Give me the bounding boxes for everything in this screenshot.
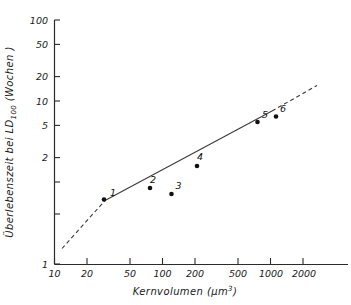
regression-line-solid [105, 111, 272, 201]
y-axis-title-group: Überlebenszeit bei LD100 (Wochen ) [3, 46, 18, 237]
regression-line-group [62, 86, 317, 249]
x-tick-label-50: 50 [124, 268, 136, 279]
x-tick-label-200: 200 [186, 268, 204, 279]
x-tick-label-1000: 1000 [259, 268, 283, 279]
y-tick-label-100: 100 [30, 15, 48, 26]
data-point-label-6: 6 [280, 103, 286, 114]
data-point-4[interactable] [195, 164, 200, 169]
data-point-label-3: 3 [176, 180, 182, 191]
regression-line-dashed-high [272, 86, 317, 112]
data-point-label-4: 4 [197, 151, 203, 162]
data-point-3[interactable] [169, 192, 174, 197]
y-tick-label-1: 1 [42, 259, 48, 270]
axes-group [55, 20, 349, 265]
y-axis-title-subscript: 100 [10, 105, 18, 120]
data-point-label-2: 2 [150, 174, 156, 185]
data-point-label-1: 1 [110, 187, 116, 198]
chart-figure: 100 50 20 10 5 2 1 10 20 50 100 200 500 [0, 0, 351, 305]
data-point-label-5: 5 [262, 109, 268, 120]
x-axis-title-main: Kernvolumen (µm [133, 286, 228, 297]
x-axis-title: Kernvolumen (µm3) [133, 285, 238, 297]
y-axis-tick-labels: 100 50 20 10 5 2 1 [30, 15, 48, 270]
x-tick-label-500: 500 [229, 268, 247, 279]
scatter-plot-svg: 100 50 20 10 5 2 1 10 20 50 100 200 500 [0, 0, 351, 305]
regression-line-dashed-low [62, 201, 105, 249]
y-axis-title: Überlebenszeit bei LD100 (Wochen ) [3, 46, 18, 237]
x-axis-ticks [55, 258, 304, 265]
x-axis-title-close: ) [232, 286, 237, 297]
x-axis-title-group: Kernvolumen (µm3) [133, 285, 238, 297]
data-point-2[interactable] [148, 186, 153, 191]
y-tick-label-10: 10 [36, 96, 48, 107]
y-axis-title-part1: Überlebenszeit bei LD [3, 119, 15, 237]
x-axis-tick-labels: 10 20 50 100 200 500 1000 2000 [48, 268, 316, 279]
data-point-5[interactable] [255, 120, 260, 125]
x-tick-label-10: 10 [48, 268, 60, 279]
data-point-1[interactable] [102, 197, 107, 202]
data-point-6[interactable] [274, 114, 279, 119]
x-tick-label-100: 100 [153, 268, 171, 279]
y-axis-ticks [55, 20, 61, 264]
y-tick-label-2: 2 [42, 152, 48, 163]
x-tick-label-20: 20 [81, 268, 93, 279]
y-tick-label-20: 20 [36, 71, 48, 82]
x-tick-label-2000: 2000 [292, 268, 316, 279]
y-tick-label-5: 5 [42, 120, 48, 131]
y-tick-label-50: 50 [36, 39, 48, 50]
y-axis-title-part2: (Wochen ) [4, 46, 15, 105]
